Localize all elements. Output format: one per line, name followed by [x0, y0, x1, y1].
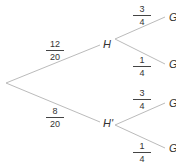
prob-g3-den: 4 [133, 100, 151, 111]
prob-h: 12 20 [46, 39, 64, 62]
prob-g4-num: 1 [133, 141, 151, 153]
prob-g2: 1 4 [133, 55, 151, 78]
prob-g1-den: 4 [133, 16, 151, 27]
prob-h-num: 12 [46, 39, 64, 51]
node-g-2: G [169, 58, 176, 70]
prob-g1-num: 3 [133, 4, 151, 16]
node-g-1: G [169, 11, 176, 23]
prob-g4-den: 4 [133, 153, 151, 163]
node-h-prime: H' [103, 117, 113, 129]
node-g-4: G [169, 142, 176, 154]
prob-h-prime-den: 20 [46, 118, 64, 129]
prob-h-prime: 8 20 [46, 106, 64, 129]
prob-g2-num: 1 [133, 55, 151, 67]
prob-g3: 3 4 [133, 88, 151, 111]
node-h: H [103, 38, 111, 50]
prob-h-prime-num: 8 [46, 106, 64, 118]
prob-g4: 1 4 [133, 141, 151, 163]
prob-g3-num: 3 [133, 88, 151, 100]
prob-g2-den: 4 [133, 67, 151, 78]
node-g-3: G [169, 97, 176, 109]
prob-h-den: 20 [46, 51, 64, 62]
prob-g1: 3 4 [133, 4, 151, 27]
